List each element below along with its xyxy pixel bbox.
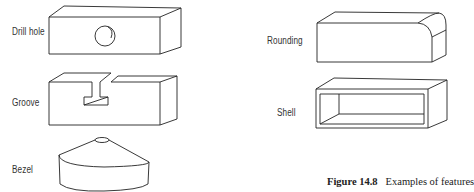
bezel-disk — [59, 138, 149, 192]
label-drill-hole: Drill hole — [12, 26, 45, 37]
drill-hole-block — [49, 6, 181, 54]
label-rounding: Rounding — [267, 35, 303, 46]
groove-block — [49, 73, 177, 125]
rounding-block — [317, 12, 446, 62]
figure-caption: Figure 14.8Examples of features — [327, 176, 474, 187]
label-bezel: Bezel — [12, 164, 33, 175]
figure-number: Figure 14.8 — [327, 176, 378, 187]
label-shell: Shell — [277, 107, 296, 118]
figure-caption-text: Examples of features — [386, 176, 474, 187]
label-groove: Groove — [12, 97, 39, 108]
shell-box — [316, 78, 447, 128]
